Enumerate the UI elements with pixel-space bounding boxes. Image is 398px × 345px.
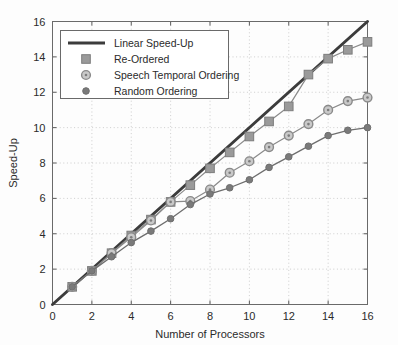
marker-circle-filled [285,154,292,161]
x-tick-label: 12 [283,310,295,322]
marker-center-dot [248,160,251,163]
x-tick-label: 2 [89,310,95,322]
legend-label-1: Re-Ordered [114,53,170,65]
x-tick-label: 8 [207,310,213,322]
marker-square [186,181,195,190]
x-tick-label: 10 [243,310,255,322]
marker-square [82,55,91,64]
y-tick-label: 14 [33,51,45,63]
y-tick-label: 2 [39,263,45,275]
y-tick-label: 0 [39,299,45,311]
series-3 [69,124,371,290]
marker-circle-filled [187,201,194,208]
y-tick-label: 16 [33,16,45,28]
chart-legend: Linear Speed-UpRe-OrderedSpeech Temporal… [61,31,240,99]
x-tick-labels: 0246810121416 [49,310,373,322]
x-tick-label: 0 [49,310,55,322]
speedup-chart-figure: 0246810121416 0246810121416 Number of Pr… [0,0,398,345]
marker-center-dot [268,146,271,149]
marker-square [206,164,215,173]
marker-circle-filled [69,284,76,291]
marker-square [304,70,313,79]
y-tick-label: 10 [33,122,45,134]
series-line [72,128,367,287]
x-tick-label: 14 [322,310,334,322]
marker-circle-filled [246,177,253,184]
marker-circle-filled [167,215,174,222]
legend-label-2: Speech Temporal Ordering [114,69,239,81]
marker-circle-filled [226,184,233,191]
marker-square [245,132,254,141]
x-axis-title: Number of Processors [155,328,265,340]
marker-square [265,117,274,126]
marker-center-dot [150,219,153,222]
marker-center-dot [307,123,310,126]
x-tick-label: 6 [168,310,174,322]
marker-center-dot [130,236,133,239]
marker-center-dot [169,201,172,204]
marker-center-dot [327,109,330,112]
marker-circle-filled [89,268,96,275]
marker-circle-filled [305,143,312,150]
marker-square [225,148,234,157]
marker-circle-filled [266,164,273,171]
legend-label-3: Random Ordering [114,85,198,97]
marker-circle-filled [364,124,371,131]
series-2 [68,93,372,291]
marker-center-dot [85,74,88,77]
legend-label-0: Linear Speed-Up [114,37,194,49]
x-tick-label: 16 [361,310,373,322]
y-tick-label: 6 [39,192,45,204]
marker-circle-filled [108,253,115,260]
y-tick-label: 8 [39,157,45,169]
marker-circle-filled [148,228,155,235]
y-tick-label: 12 [33,86,45,98]
marker-circle-filled [207,191,214,198]
marker-square [284,102,293,111]
y-axis-title: Speed-Up [7,138,19,188]
marker-square [344,46,353,55]
y-tick-label: 4 [39,228,45,240]
marker-center-dot [287,134,290,137]
y-tick-labels: 0246810121416 [33,16,45,311]
x-tick-label: 4 [128,310,134,322]
marker-circle-filled [128,239,135,246]
marker-circle-filled [325,132,332,139]
marker-center-dot [366,96,369,99]
marker-center-dot [228,171,231,174]
marker-square [363,38,372,47]
marker-circle-filled [83,88,90,95]
chart-canvas: 0246810121416 0246810121416 Number of Pr… [0,0,398,345]
marker-center-dot [347,100,350,103]
marker-circle-filled [345,127,352,134]
series-line [72,98,367,287]
marker-square [324,54,333,63]
